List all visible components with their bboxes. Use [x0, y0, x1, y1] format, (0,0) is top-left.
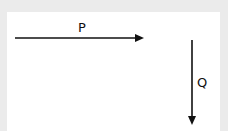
vector-diagram — [0, 0, 228, 131]
label-q: Q — [197, 76, 207, 89]
arrow-p — [15, 34, 144, 42]
arrow-q — [188, 40, 196, 125]
label-p: P — [78, 21, 86, 34]
